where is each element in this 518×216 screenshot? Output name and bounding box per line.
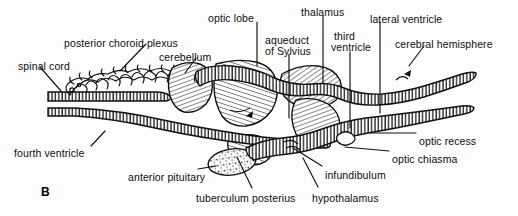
- leader-fourth-ventricle: [91, 131, 105, 146]
- label-fourth-ventricle: fourth ventricle: [14, 148, 84, 160]
- brain-sagittal-diagram: spinal cordposterior choroid plexuscereb…: [0, 0, 518, 216]
- label-aqueduct-of-sylvius-2: of Sylvius: [265, 46, 311, 58]
- cerebral-hemisphere-structure: [396, 70, 411, 80]
- label-infundibulum: infundibulum: [325, 170, 386, 182]
- label-cerebral-hemisphere: cerebral hemisphere: [395, 39, 493, 51]
- label-thalamus: thalamus: [301, 7, 344, 19]
- cerebellum-structure: [160, 55, 220, 119]
- label-optic-lobe: optic lobe: [208, 13, 254, 25]
- label-hypothalamus: hypothalamus: [312, 193, 379, 205]
- label-optic-chiasma: optic chiasma: [392, 154, 458, 166]
- leader-optic-chiasma: [345, 147, 389, 151]
- label-anterior-pituitary: anterior pituitary: [128, 172, 205, 184]
- anatomical-drawing: [0, 0, 518, 216]
- label-spinal-cord: spinal cord: [18, 61, 70, 73]
- label-lateral-ventricle: lateral ventricle: [370, 14, 442, 26]
- label-tuberculum-posterius: tuberculum posterius: [196, 193, 295, 205]
- spinal-cord-structure: [40, 86, 180, 108]
- label-posterior-choroid-plexus: posterior choroid plexus: [64, 38, 178, 50]
- label-third-ventricle-2: ventricle: [331, 42, 371, 54]
- panel-label: B: [41, 185, 50, 199]
- optic-chiasma-structure: [337, 132, 356, 146]
- label-cerebellum: cerebellum: [159, 52, 211, 64]
- label-optic-recess: optic recess: [419, 136, 476, 148]
